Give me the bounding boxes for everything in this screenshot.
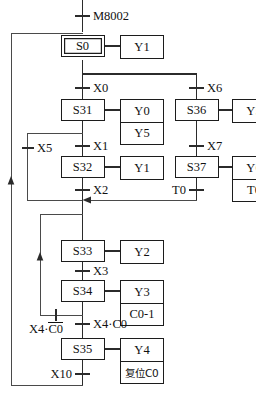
action-box-s33[interactable]: Y2	[120, 240, 164, 264]
arrow-return-up	[8, 176, 15, 185]
step-box-s0[interactable]: S0	[61, 35, 105, 57]
action-line: Y2	[121, 241, 163, 263]
step-label-s37: S37	[187, 161, 206, 174]
transition-label-x10: X10	[48, 368, 72, 381]
action-box-s31[interactable]: Y0 Y5	[120, 99, 164, 145]
step-box-s31[interactable]: S31	[61, 99, 105, 121]
step-box-s37[interactable]: S37	[175, 156, 219, 178]
sfc-diagram: S0 S31 S32 S33 S34 S35 S36 S37 Y1 Y0 Y5 …	[0, 0, 256, 396]
x4c0not-prefix: X4·	[29, 322, 48, 336]
sfc-wiring	[0, 0, 256, 396]
action-line: Y0	[121, 100, 163, 122]
action-line: Y4	[121, 339, 163, 361]
transition-label-x5: X5	[37, 142, 52, 155]
step-box-s32[interactable]: S32	[61, 156, 105, 178]
action-line: T0	[233, 179, 256, 201]
step-label-s34: S34	[73, 285, 92, 298]
transition-label-x3: X3	[93, 265, 108, 278]
action-line: Y6	[233, 157, 256, 179]
transition-label-x1: X1	[93, 140, 108, 153]
action-box-s35[interactable]: Y4 复位C0	[120, 338, 164, 384]
step-box-s36[interactable]: S36	[175, 99, 219, 121]
x4c0not-overlined: C0	[48, 322, 63, 336]
arrow-t0-merge	[83, 197, 92, 204]
step-box-s33[interactable]: S33	[61, 240, 105, 262]
step-label-s0: S0	[76, 40, 89, 53]
action-line: C0-1	[121, 303, 163, 325]
step-box-s34[interactable]: S34	[61, 280, 105, 302]
step-label-s36: S36	[187, 104, 206, 117]
action-line: Y3	[121, 281, 163, 303]
transition-label-x4-c0-not: X4·C0	[29, 322, 63, 336]
action-box-s0[interactable]: Y1	[120, 35, 164, 59]
action-line: 复位C0	[121, 361, 163, 383]
transition-label-t0: T0	[162, 184, 186, 197]
transition-label-x4-c0: X4·C0	[93, 318, 127, 331]
transition-label-x7: X7	[207, 140, 222, 153]
action-line: Y1	[121, 157, 163, 179]
action-line: Y5	[233, 100, 256, 122]
transition-label-x6: X6	[207, 82, 222, 95]
step-label-s35: S35	[73, 343, 92, 356]
step-box-s35[interactable]: S35	[61, 338, 105, 360]
arrow-x4c0b-up	[37, 252, 44, 261]
step-label-s32: S32	[73, 161, 92, 174]
action-line: Y5	[121, 122, 163, 144]
step-label-s31: S31	[73, 104, 92, 117]
action-box-s36[interactable]: Y5	[232, 99, 256, 123]
action-box-s37[interactable]: Y6 T0	[232, 156, 256, 202]
action-box-s32[interactable]: Y1	[120, 156, 164, 180]
transition-label-m8002: M8002	[93, 10, 129, 23]
transition-label-x0: X0	[93, 82, 108, 95]
action-line: Y1	[121, 36, 163, 58]
transition-label-x2: X2	[93, 184, 108, 197]
step-label-s33: S33	[73, 245, 92, 258]
